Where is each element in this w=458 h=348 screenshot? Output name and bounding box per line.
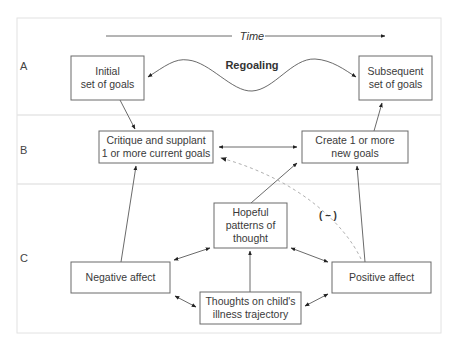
box-negative-label: Negative affect	[86, 271, 156, 283]
row-label-a: A	[20, 60, 28, 72]
negative-hopeful-bidirectional-arrow	[174, 248, 210, 260]
box-initial-line1: Initial	[95, 65, 120, 77]
box-thoughts-illness: Thoughts on child's illness trajectory	[200, 292, 301, 324]
hopeful-to-create-arrow	[251, 163, 297, 203]
box-hopeful-line3: thought	[233, 232, 268, 244]
regoaling-diagram: A B C Time Regoaling ( – ) Initial set o…	[0, 0, 458, 348]
row-label-c: C	[20, 252, 28, 264]
thoughts-positive-bidirectional-arrow	[305, 294, 328, 306]
box-initial-line2: set of goals	[81, 78, 135, 90]
box-thoughts-line2: illness trajectory	[213, 308, 289, 320]
hopeful-positive-bidirectional-arrow	[291, 248, 328, 262]
row-label-b: B	[20, 144, 27, 156]
box-critique-line1: Critique and supplant	[106, 134, 205, 146]
box-subsequent-line1: Subsequent	[367, 65, 423, 77]
negative-link-label: ( – )	[319, 210, 337, 221]
negative-to-critique-arrow	[121, 166, 136, 262]
box-subsequent-goals: Subsequent set of goals	[359, 56, 432, 100]
box-initial-goals: Initial set of goals	[71, 56, 144, 100]
positive-to-create-arrow	[357, 166, 365, 262]
box-positive-affect: Positive affect	[332, 262, 431, 293]
box-create-line2: new goals	[331, 147, 378, 159]
create-to-subsequent-arrow	[374, 103, 382, 131]
box-critique-line2: 1 or more current goals	[102, 147, 211, 159]
box-create-line1: Create 1 or more	[315, 134, 395, 146]
box-positive-label: Positive affect	[349, 271, 414, 283]
box-negative-affect: Negative affect	[71, 262, 170, 293]
box-create-new-goals: Create 1 or more new goals	[302, 131, 408, 163]
time-label: Time	[240, 30, 264, 42]
negative-thoughts-bidirectional-arrow	[175, 296, 196, 307]
box-critique-supplant: Critique and supplant 1 or more current …	[99, 131, 213, 163]
box-hopeful-patterns: Hopeful patterns of thought	[214, 203, 287, 248]
box-thoughts-line1: Thoughts on child's	[205, 295, 295, 307]
box-subsequent-line2: set of goals	[369, 78, 423, 90]
box-hopeful-line1: Hopeful	[232, 206, 268, 218]
box-hopeful-line2: patterns of	[226, 219, 276, 231]
regoaling-label: Regoaling	[225, 59, 278, 71]
